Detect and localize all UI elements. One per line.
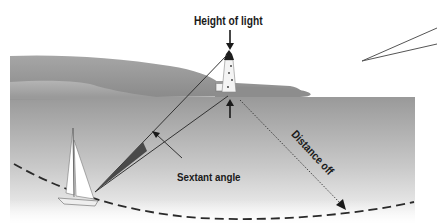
diagram-scene: [0, 0, 437, 224]
height-arrow-top: [226, 30, 234, 50]
inset-pointer: [362, 28, 437, 61]
label-height-of-light: Height of light: [194, 14, 263, 28]
lighthouse: [222, 50, 236, 92]
label-sextant-angle: Sextant angle: [177, 171, 241, 183]
